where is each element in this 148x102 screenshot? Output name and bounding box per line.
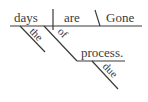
article-word: the — [28, 25, 46, 43]
preposition-word: of — [56, 25, 71, 40]
object-word: process. — [81, 45, 123, 60]
predicate-word: are — [64, 10, 80, 25]
subject-word: days — [14, 10, 38, 25]
adjective-word: due — [101, 60, 121, 80]
complement-divider — [95, 10, 100, 26]
sentence-diagram: days are Gone the of process. due — [0, 0, 148, 102]
complement-word: Gone — [106, 10, 134, 25]
